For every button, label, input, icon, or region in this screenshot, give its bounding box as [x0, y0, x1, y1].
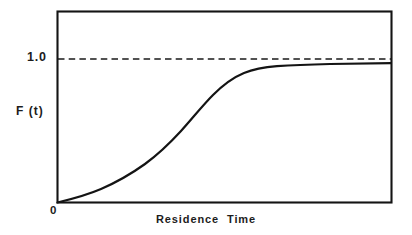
chart-plot-area	[0, 0, 412, 235]
plot-frame	[58, 12, 392, 203]
y-axis-title: F (t)	[16, 105, 44, 117]
x-axis-title: Residence Time	[0, 214, 412, 225]
chart-figure: 1.0 F (t) 0 Residence Time	[0, 0, 412, 235]
y-axis-tick-label-1.0: 1.0	[27, 51, 47, 64]
